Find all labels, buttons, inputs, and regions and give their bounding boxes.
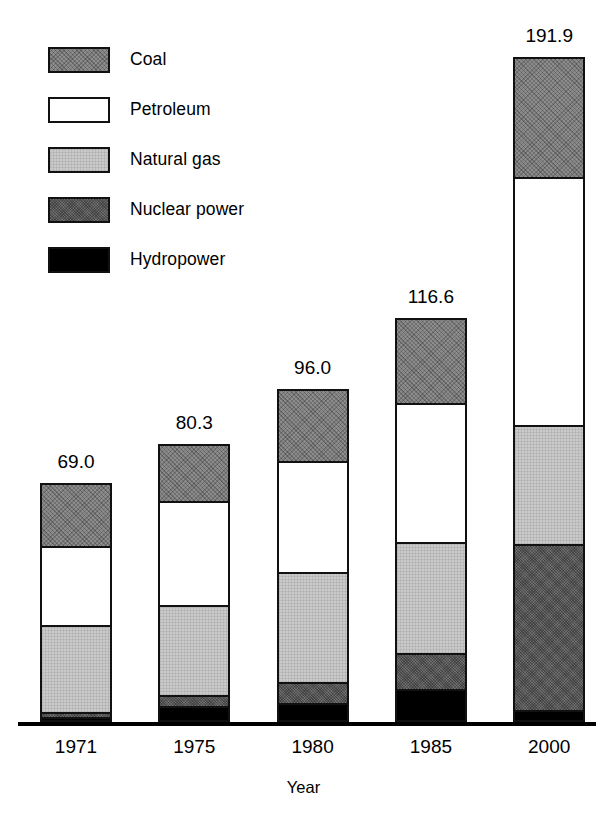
bar-segment-natural-gas-1980: [279, 572, 347, 683]
x-axis-title: Year: [0, 778, 607, 797]
bar-1971: [40, 483, 112, 722]
bar-1975: [158, 444, 230, 722]
x-tick-label-1975: 1975: [129, 736, 259, 758]
bar-segment-nuclear-power-2000: [515, 544, 583, 710]
bar-segment-hydropower-1985: [397, 689, 465, 722]
x-tick-label-2000: 2000: [484, 736, 607, 758]
bar-segment-petroleum-1975: [160, 501, 228, 605]
bar-segment-coal-1985: [397, 320, 465, 403]
x-axis-line: [18, 722, 596, 726]
bar-value-label-2000: 191.9: [484, 25, 607, 47]
bar-segment-hydropower-1980: [279, 703, 347, 722]
bar-segment-natural-gas-1971: [42, 625, 110, 712]
bar-segment-natural-gas-2000: [515, 425, 583, 545]
stacked-bar-chart: Coal Petroleum Natural gas Nuclear power…: [0, 0, 607, 833]
plot-area: 69.080.396.0116.6191.9: [0, 0, 607, 760]
bar-value-label-1971: 69.0: [11, 451, 141, 473]
bar-segment-coal-1971: [42, 485, 110, 546]
x-tick-label-1985: 1985: [366, 736, 496, 758]
bar-1980: [277, 389, 349, 722]
bar-value-label-1975: 80.3: [129, 412, 259, 434]
x-tick-label-1971: 1971: [11, 736, 141, 758]
bar-segment-petroleum-1985: [397, 403, 465, 542]
bar-segment-hydropower-1975: [160, 706, 228, 722]
bar-segment-nuclear-power-1975: [160, 695, 228, 705]
bar-segment-petroleum-1980: [279, 461, 347, 572]
bar-segment-natural-gas-1985: [397, 542, 465, 653]
bar-segment-nuclear-power-1980: [279, 682, 347, 703]
bar-segment-nuclear-power-1985: [397, 653, 465, 689]
bar-segment-coal-2000: [515, 59, 583, 177]
bar-value-label-1985: 116.6: [366, 286, 496, 308]
bar-segment-hydropower-2000: [515, 710, 583, 722]
bar-segment-coal-1975: [160, 446, 228, 501]
bar-value-label-1980: 96.0: [248, 357, 378, 379]
bar-2000: [513, 57, 585, 722]
bar-segment-petroleum-1971: [42, 546, 110, 626]
bar-segment-natural-gas-1975: [160, 605, 228, 695]
bar-segment-coal-1980: [279, 391, 347, 460]
bar-segment-petroleum-2000: [515, 177, 583, 425]
bar-1985: [395, 318, 467, 722]
x-tick-label-1980: 1980: [248, 736, 378, 758]
